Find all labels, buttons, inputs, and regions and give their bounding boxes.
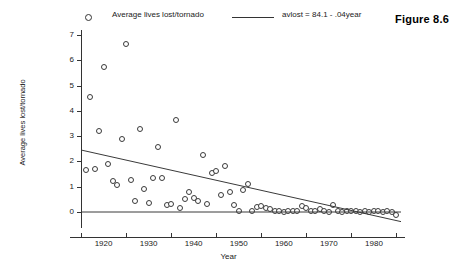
x-axis-label: Year <box>0 252 457 261</box>
figure-container: Average lives lost/tornado avlost = 84.1… <box>0 0 457 272</box>
regression-fit-line <box>81 150 401 222</box>
plot-area: 012345671920193019401950196019701980 <box>0 0 457 272</box>
chart-lines <box>0 0 457 272</box>
y-axis-label: Average lives lost/tornado <box>18 53 27 193</box>
